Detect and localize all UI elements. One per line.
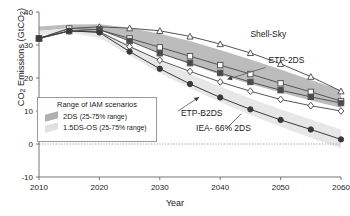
legend-label-2ds: 2DS (25-75% range) — [63, 112, 127, 121]
data-point-marker — [338, 137, 343, 142]
legend: Range of IAM scenarios 2DS (25-75% range… — [37, 97, 157, 142]
data-point-marker — [157, 51, 162, 56]
annotation-label: Shell-Sky — [250, 29, 287, 39]
x-tick-label: 2010 — [30, 183, 48, 192]
data-point-marker — [217, 79, 223, 86]
data-point-marker — [36, 36, 41, 41]
data-point-marker — [278, 81, 283, 86]
data-point-marker — [248, 107, 253, 112]
chart-figure: CO2 Emissions (GtCO2) Year Shell-SkyETP-… — [0, 0, 350, 216]
legend-swatch-15ds-os — [45, 122, 58, 133]
legend-swatch-2ds — [45, 111, 58, 122]
data-point-marker — [248, 88, 254, 95]
data-point-marker — [127, 49, 132, 54]
legend-item-15ds-os: 1.5DS-OS (25-75% range) — [38, 123, 156, 132]
data-point-marker — [308, 94, 313, 99]
data-point-marker — [97, 30, 102, 35]
legend-range-15ds-os: (25-75% range) — [99, 124, 146, 131]
y-tick-label: 10 — [24, 107, 33, 116]
data-point-marker — [218, 70, 223, 75]
y-tick-label: 20 — [24, 74, 33, 83]
legend-item-2ds: 2DS (25-75% range) — [38, 112, 156, 121]
data-point-marker — [187, 54, 192, 59]
data-point-marker — [157, 45, 162, 50]
data-point-marker — [218, 95, 223, 100]
data-point-marker — [218, 62, 223, 67]
data-point-marker — [308, 102, 314, 109]
x-tick-label: 2020 — [91, 183, 109, 192]
annotation-label: ETP-B2DS — [181, 108, 223, 118]
y-tick-label: -10 — [21, 173, 33, 182]
data-point-marker — [278, 88, 283, 93]
legend-title: Range of IAM scenarios — [38, 98, 156, 109]
annotation-label: ETP-2DS — [269, 55, 305, 65]
y-tick-label: 40 — [24, 8, 33, 17]
data-point-marker — [67, 28, 72, 33]
data-point-marker — [248, 79, 253, 84]
annotation-label: IEA- 66% 2DS — [196, 123, 251, 133]
x-tick-label: 2060 — [332, 183, 350, 192]
data-point-marker — [187, 81, 192, 86]
data-point-marker — [278, 96, 284, 103]
legend-label-15ds-os: 1.5DS-OS (25-75% range) — [63, 123, 147, 132]
data-point-marker — [187, 60, 192, 65]
y-tick-label: 30 — [24, 41, 33, 50]
x-tick-label: 2040 — [211, 183, 229, 192]
data-point-marker — [338, 108, 344, 115]
data-point-marker — [278, 117, 283, 122]
data-point-marker — [157, 66, 162, 71]
data-point-marker — [308, 74, 314, 80]
legend-range-2ds: (25-75% range) — [80, 113, 127, 120]
x-tick-label: 2030 — [151, 183, 169, 192]
annotation-arrowhead — [194, 97, 199, 101]
data-point-marker — [308, 127, 313, 132]
y-tick-label: 0 — [29, 140, 34, 149]
x-tick-label: 2050 — [272, 183, 290, 192]
data-point-marker — [338, 100, 343, 105]
